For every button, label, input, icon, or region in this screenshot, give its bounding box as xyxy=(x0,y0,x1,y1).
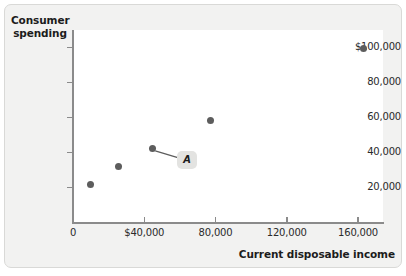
y-tick-label: 20,000 xyxy=(339,181,401,192)
x-tick-mark xyxy=(357,217,359,224)
x-axis-line xyxy=(72,222,384,224)
x-axis-title: Current disposable income xyxy=(215,248,395,260)
data-point xyxy=(87,181,94,188)
y-tick-label: 40,000 xyxy=(339,146,401,157)
y-tick-mark xyxy=(67,82,73,84)
y-tick-label: $100,000 xyxy=(339,41,401,52)
plot-area xyxy=(73,30,383,223)
figure-frame: Consumer spending 20,00040,00060,00080,0… xyxy=(4,4,402,268)
y-tick-mark xyxy=(67,47,73,49)
y-tick-label: 80,000 xyxy=(339,76,401,87)
data-point xyxy=(360,45,367,52)
x-tick-label: 80,000 xyxy=(176,227,256,238)
y-axis-title: Consumer spending xyxy=(11,14,69,39)
y-tick-label: 60,000 xyxy=(339,111,401,122)
y-axis-line xyxy=(72,30,74,224)
x-tick-label: 160,000 xyxy=(318,227,398,238)
x-tick-mark xyxy=(144,217,146,224)
y-tick-mark xyxy=(67,117,73,119)
x-tick-mark xyxy=(215,217,217,224)
data-point xyxy=(207,117,214,124)
y-tick-mark xyxy=(67,152,73,154)
x-tick-label: 120,000 xyxy=(247,227,327,238)
annotation-label-a: A xyxy=(177,151,197,169)
x-tick-mark xyxy=(286,217,288,224)
y-tick-mark xyxy=(67,187,73,189)
x-tick-label: $40,000 xyxy=(104,227,184,238)
x-tick-label: 0 xyxy=(33,227,113,238)
